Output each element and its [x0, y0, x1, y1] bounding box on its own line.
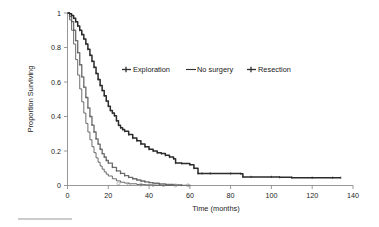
x-tick-label-80: 80 [227, 191, 235, 200]
legend-label-no-surgery: No surgery [197, 65, 233, 74]
y-tick-label-0.4: 0.4 [51, 112, 61, 121]
x-tick-label-40: 40 [145, 191, 153, 200]
y-tick-label-1: 1 [57, 9, 61, 18]
legend-label-exploration: Exploration [133, 65, 170, 74]
y-tick-label-0: 0 [57, 181, 61, 190]
chart-legend: Exploration No surgery Resection [122, 65, 291, 74]
y-tick-label-0.8: 0.8 [51, 43, 61, 52]
legend-label-resection: Resection [258, 65, 291, 74]
x-tick-label-120: 120 [306, 191, 318, 200]
x-tick-label-20: 20 [104, 191, 112, 200]
x-tick-label-140: 140 [347, 191, 359, 200]
x-axis-title: Time (months) [192, 204, 239, 213]
y-axis-title: Proportion Surviving [26, 66, 35, 133]
survival-curve-chart: 0 0.2 0.4 0.6 0.8 1 0 20 40 60 80 100 12… [0, 0, 379, 227]
x-tick-label-100: 100 [265, 191, 277, 200]
x-tick-label-60: 60 [186, 191, 194, 200]
y-tick-label-0.6: 0.6 [51, 78, 61, 87]
y-tick-label-0.2: 0.2 [51, 147, 61, 156]
x-tick-label-0: 0 [66, 191, 70, 200]
